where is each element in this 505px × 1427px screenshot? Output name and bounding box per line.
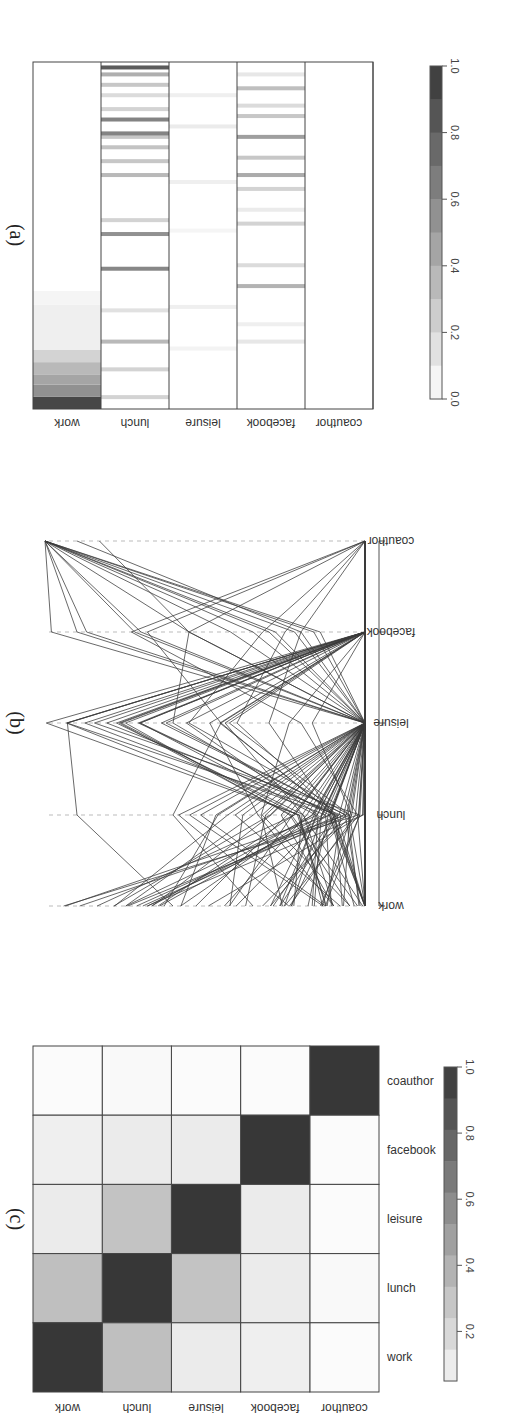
- cell-work-leisure: [33, 1184, 102, 1253]
- figure: 1.00.80.60.40.20.0coauthorfacebookleisur…: [0, 0, 505, 1427]
- heatmap-stripe: [101, 93, 169, 97]
- heatmap-stripe: [101, 107, 169, 111]
- axis-label-work: work: [377, 899, 404, 913]
- heatmap-stripe: [169, 180, 237, 184]
- heatmap-stripe: [101, 145, 169, 149]
- colorbar-segment: [430, 299, 442, 333]
- col-label-work: work: [386, 1350, 413, 1364]
- colorbar-tick-label: 0.2: [464, 1324, 476, 1339]
- heatmap-stripe: [101, 65, 169, 69]
- heatmap-stripe: [237, 284, 305, 288]
- row-label-work: work: [53, 416, 80, 430]
- heatmap-stripe: [33, 385, 101, 397]
- cell-facebook-leisure: [241, 1184, 310, 1253]
- cell-coauthor-lunch: [310, 1254, 379, 1323]
- axis-label-facebook: facebook: [366, 625, 416, 639]
- cell-leisure-leisure: [171, 1184, 240, 1253]
- colorbar-segment: [430, 199, 442, 233]
- row-label-leisure: leisure: [188, 1401, 224, 1415]
- axis-label-lunch: lunch: [377, 808, 406, 822]
- colorbar-segment: [444, 1161, 457, 1193]
- colorbar-segment: [444, 1193, 457, 1225]
- colorbar-segment: [444, 1255, 457, 1287]
- cell-leisure-facebook: [171, 1115, 240, 1184]
- cell-lunch-leisure: [102, 1184, 171, 1253]
- col-label-facebook: facebook: [387, 1143, 437, 1157]
- colorbar-tick-label: 0.6: [449, 192, 461, 207]
- colorbar-segment: [430, 233, 442, 267]
- heatmap-stripe: [101, 72, 169, 76]
- heatmap-stripe: [169, 93, 237, 97]
- heatmap-stripe: [237, 222, 305, 226]
- heatmap-stripe: [169, 229, 237, 233]
- axis-label-leisure: leisure: [373, 716, 409, 730]
- cell-facebook-facebook: [241, 1115, 310, 1184]
- heatmap-stripe: [237, 156, 305, 160]
- heatmap-stripe: [101, 340, 169, 344]
- figure-stage: 1.00.80.60.40.20.0coauthorfacebookleisur…: [0, 0, 505, 1427]
- cell-lunch-lunch: [102, 1254, 171, 1323]
- heatmap-stripe: [33, 362, 101, 374]
- row-label-leisure: leisure: [185, 416, 221, 430]
- colorbar-segment: [430, 66, 442, 100]
- heatmap-stripe: [237, 173, 305, 177]
- heatmap-stripe: [33, 350, 101, 362]
- panel-c-correlation-matrix: 1.00.80.60.40.2coauthorcoauthorfacebookf…: [33, 1046, 476, 1415]
- colorbar-tick-label: 1.0: [464, 1059, 476, 1074]
- colorbar-tick-label: 1.0: [449, 58, 461, 73]
- heatmap-stripe: [101, 173, 169, 177]
- heatmap-stripe: [237, 114, 305, 118]
- heatmap-stripe: [237, 72, 305, 76]
- colorbar-tick-label: 0.6: [464, 1192, 476, 1207]
- heatmap-stripe: [237, 208, 305, 212]
- heatmap-stripe: [237, 135, 305, 139]
- heatmap-stripe: [101, 367, 169, 371]
- row-label-coauthor: coauthor: [316, 416, 363, 430]
- colorbar-segment: [430, 332, 442, 366]
- row-label-lunch: lunch: [122, 1401, 151, 1415]
- row-label-work: work: [54, 1401, 81, 1415]
- col-label-lunch: lunch: [387, 1281, 416, 1295]
- heatmap-stripe: [237, 187, 305, 191]
- cell-coauthor-work: [310, 1323, 379, 1392]
- heatmap-row-coauthor: [305, 62, 373, 409]
- row-label-facebook: facebook: [250, 1401, 300, 1415]
- caption-a: (a): [5, 224, 28, 246]
- heatmap-stripe: [237, 86, 305, 90]
- heatmap-stripe: [169, 124, 237, 128]
- col-label-coauthor: coauthor: [387, 1074, 434, 1088]
- cell-work-coauthor: [33, 1046, 102, 1115]
- colorbar-segment: [430, 166, 442, 200]
- row-label-coauthor: coauthor: [321, 1401, 368, 1415]
- heatmap-stripe: [101, 159, 169, 163]
- colorbar-tick-label: 0.8: [449, 125, 461, 140]
- heatmap-stripe: [237, 340, 305, 344]
- cell-facebook-work: [241, 1323, 310, 1392]
- panel-a-heatmap: 1.00.80.60.40.20.0coauthorfacebookleisur…: [33, 58, 461, 430]
- cell-lunch-work: [102, 1323, 171, 1392]
- heatmap-stripe: [237, 104, 305, 108]
- cell-leisure-coauthor: [171, 1046, 240, 1115]
- heatmap-stripe: [101, 308, 169, 312]
- colorbar-segment: [444, 1130, 457, 1162]
- heatmap-stripe: [33, 305, 101, 350]
- colorbar-segment: [430, 99, 442, 133]
- cell-leisure-lunch: [171, 1254, 240, 1323]
- heatmap-stripe: [169, 347, 237, 351]
- axis-label-coauthor: coauthor: [368, 534, 415, 548]
- heatmap-stripe: [237, 322, 305, 326]
- row-label-facebook: facebook: [246, 416, 296, 430]
- cell-lunch-facebook: [102, 1115, 171, 1184]
- cell-facebook-lunch: [241, 1254, 310, 1323]
- colorbar-tick-label: 0.8: [464, 1125, 476, 1140]
- caption-c: (c): [5, 1208, 28, 1230]
- colorbar-segment: [444, 1318, 457, 1350]
- panel-b-parallel-coordinates: coauthorfacebookleisurelunchwork: [45, 534, 415, 913]
- colorbar-tick-label: 0.4: [449, 258, 461, 273]
- col-label-leisure: leisure: [387, 1212, 423, 1226]
- row-label-lunch: lunch: [121, 416, 150, 430]
- cell-leisure-work: [171, 1323, 240, 1392]
- colorbar-tick-label: 0.2: [449, 325, 461, 340]
- cell-coauthor-coauthor: [310, 1046, 379, 1115]
- colorbar-segment: [444, 1350, 457, 1382]
